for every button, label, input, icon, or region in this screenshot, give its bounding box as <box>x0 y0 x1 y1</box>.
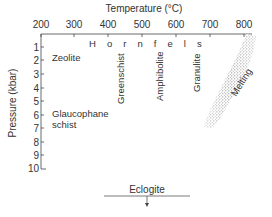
facies-label-eclogite: Eclogite <box>129 184 165 195</box>
x-tick-label: 300 <box>66 19 83 30</box>
y-tick-label: 10 <box>28 163 40 174</box>
facies-label-greenschist: Greenschist <box>115 53 126 104</box>
x-tick-label: 500 <box>134 19 151 30</box>
y-tick-label: 7 <box>33 123 39 134</box>
x-axis-tick-labels: 200 300 400 500 600 700 800 <box>33 19 253 30</box>
x-axis-title: Temperature (°C) <box>106 3 183 14</box>
x-axis <box>41 34 252 37</box>
y-axis <box>41 34 46 169</box>
y-axis-tick-labels: 1 2 3 4 5 6 7 8 9 10 <box>28 42 40 174</box>
y-tick-label: 2 <box>33 55 39 66</box>
x-tick-label: 400 <box>100 19 117 30</box>
facies-label-glaucophane: Glaucophane <box>52 108 109 119</box>
y-tick-label: 1 <box>33 42 39 53</box>
facies-label-hornfels: H o r n f e l s <box>89 38 206 49</box>
y-tick-label: 9 <box>33 150 39 161</box>
y-tick-label: 3 <box>33 69 39 80</box>
facies-diagram: Temperature (°C) 200 300 400 500 600 700… <box>0 0 272 217</box>
x-tick-label: 800 <box>236 19 253 30</box>
arrow-down-icon <box>145 203 149 207</box>
x-tick-label: 600 <box>168 19 185 30</box>
x-tick-label: 200 <box>33 19 50 30</box>
y-tick-label: 4 <box>33 83 39 94</box>
facies-label-amphibolite: Amphibolite <box>154 51 165 101</box>
y-tick-label: 5 <box>33 96 39 107</box>
facies-label-zeolite: Zeolite <box>52 52 81 63</box>
facies-label-schist: schist <box>52 119 77 130</box>
y-axis-title: Pressure (kbar) <box>7 69 18 138</box>
y-tick-label: 6 <box>33 110 39 121</box>
facies-label-granulite: Granulite <box>191 53 202 92</box>
x-tick-label: 700 <box>202 19 219 30</box>
y-tick-label: 8 <box>33 137 39 148</box>
